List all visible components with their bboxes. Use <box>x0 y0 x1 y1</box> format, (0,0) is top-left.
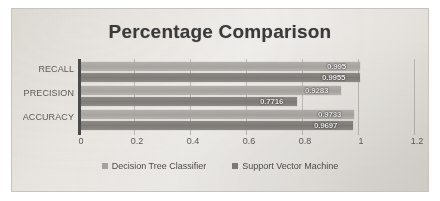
x-tick-0: 0 <box>78 136 83 146</box>
bar-value-recall-decision-tree: 0.995 <box>327 62 346 71</box>
bar-recall-decision-tree[interactable] <box>81 62 360 71</box>
bar-value-precision-support-vector-machine: 0.7716 <box>260 97 283 106</box>
y-axis-category-labels: RECALL PRECISION ACCURACY <box>12 61 74 133</box>
x-axis-tick-labels: 0 0.2 0.4 0.6 0.8 1 1.2 <box>78 136 414 150</box>
y-axis-label-accuracy: ACCURACY <box>16 112 74 122</box>
bar-value-accuracy-support-vector-machine: 0.9697 <box>314 121 337 130</box>
legend-label-support-vector-machine: Support Vector Machine <box>242 161 338 171</box>
x-tick-1: 1 <box>358 136 363 146</box>
y-axis-label-recall: RECALL <box>16 64 74 74</box>
x-tick-0.8: 0.8 <box>299 136 312 146</box>
legend-label-decision-tree: Decision Tree Classifier <box>112 161 207 171</box>
x-tick-0.4: 0.4 <box>187 136 200 146</box>
bar-group-recall: 0.995 0.9955 <box>81 61 414 85</box>
bar-value-recall-support-vector-machine: 0.9955 <box>322 73 345 82</box>
bar-group-accuracy: 0.9733 0.9697 <box>81 109 414 133</box>
chart-legend: Decision Tree Classifier Support Vector … <box>12 161 428 171</box>
bar-accuracy-decision-tree[interactable] <box>81 110 354 119</box>
x-tick-0.6: 0.6 <box>243 136 256 146</box>
legend-item-support-vector-machine[interactable]: Support Vector Machine <box>232 161 338 171</box>
bar-recall-support-vector-machine[interactable] <box>81 73 360 82</box>
legend-swatch-icon-decision-tree <box>102 163 108 169</box>
plot-area: 0.995 0.9955 0.9283 0.7716 0.9733 0.9697 <box>78 61 414 133</box>
legend-swatch-icon-support-vector-machine <box>232 163 238 169</box>
bar-accuracy-support-vector-machine[interactable] <box>81 121 353 130</box>
x-tick-1.2: 1.2 <box>411 136 424 146</box>
bar-value-accuracy-decision-tree: 0.9733 <box>318 110 341 119</box>
bar-group-precision: 0.9283 0.7716 <box>81 85 414 109</box>
chart-container: Percentage Comparison RECALL PRECISION A… <box>11 8 429 192</box>
bar-value-precision-decision-tree: 0.9283 <box>305 86 328 95</box>
legend-item-decision-tree-classifier[interactable]: Decision Tree Classifier <box>102 161 207 171</box>
y-axis-label-precision: PRECISION <box>16 88 74 98</box>
x-tick-0.2: 0.2 <box>131 136 144 146</box>
bar-precision-decision-tree[interactable] <box>81 86 341 95</box>
chart-title: Percentage Comparison <box>12 21 428 43</box>
gridline-1.2 <box>414 59 415 135</box>
